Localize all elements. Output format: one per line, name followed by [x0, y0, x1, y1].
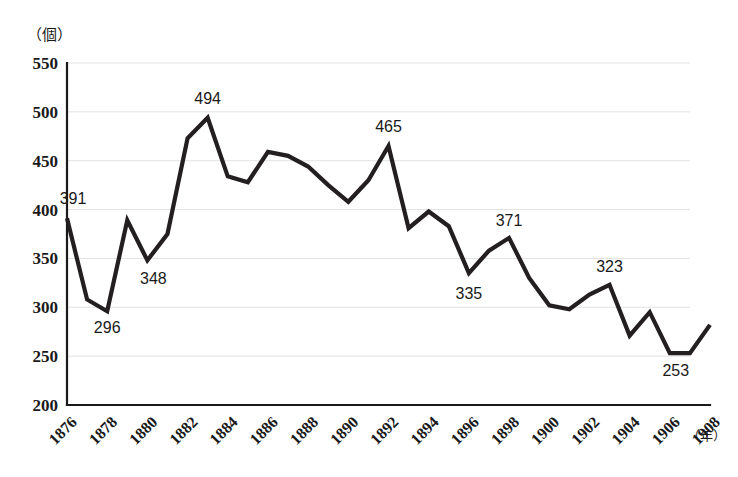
y-axis-unit-label: （個）: [27, 26, 72, 43]
chart-canvas: （個） 550500450400350300250200 18761878188…: [0, 0, 738, 477]
data-point-label: 253: [662, 362, 689, 379]
data-point-label: 348: [140, 270, 167, 287]
y-axis-tick-label: 550: [33, 54, 59, 73]
y-axis-tick-label: 350: [33, 249, 59, 268]
y-axis-tick-label: 300: [33, 298, 59, 317]
data-point-label: 371: [496, 212, 523, 229]
line-chart-container: （個） 550500450400350300250200 18761878188…: [0, 0, 738, 477]
y-axis-tick-label: 450: [33, 152, 59, 171]
data-point-label: 323: [596, 258, 623, 275]
data-point-label: 296: [94, 319, 121, 336]
data-point-label: 335: [456, 285, 483, 302]
y-axis-tick-label: 500: [33, 103, 59, 122]
y-axis-tick-label: 250: [33, 347, 59, 366]
data-point-label: 494: [194, 90, 221, 107]
data-point-label: 391: [60, 190, 87, 207]
data-point-label: 465: [375, 118, 402, 135]
x-axis-unit-label: （年）: [687, 428, 726, 443]
y-axis-tick-label: 400: [33, 201, 59, 220]
y-axis-tick-label: 200: [33, 396, 59, 415]
